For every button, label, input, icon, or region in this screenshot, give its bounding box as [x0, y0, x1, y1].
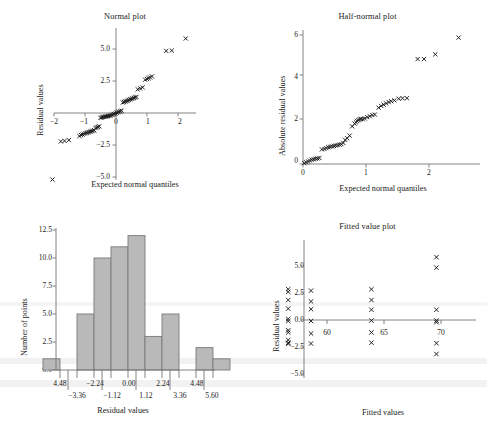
marker-cross — [286, 290, 290, 294]
half-normal-plot-axes — [300, 30, 481, 168]
marker-cross — [457, 35, 461, 39]
marker-cross — [369, 318, 373, 322]
normal-plot-axes — [54, 28, 196, 180]
histogram-bar — [43, 359, 60, 370]
half-normal-plot-markers — [302, 35, 461, 165]
histogram-bar — [213, 359, 230, 370]
marker-cross — [50, 177, 54, 181]
marker-cross — [369, 287, 373, 291]
marker-cross — [434, 341, 438, 345]
marker-cross — [184, 36, 188, 40]
marker-cross — [400, 96, 404, 100]
normal-plot-svg — [0, 4, 250, 204]
histogram-xtick-marks — [60, 370, 213, 390]
histogram-svg — [0, 210, 250, 428]
marker-cross — [392, 98, 396, 102]
half-normal-plot-panel: Half-normal plot Absolute residual value… — [248, 4, 487, 204]
marker-cross — [369, 308, 373, 312]
marker-cross — [67, 138, 71, 142]
histogram-bar — [145, 336, 162, 370]
marker-cross — [309, 299, 313, 303]
marker-cross — [433, 52, 437, 56]
marker-cross — [422, 57, 426, 61]
marker-cross — [369, 298, 373, 302]
marker-cross — [369, 340, 373, 344]
marker-cross — [434, 352, 438, 356]
histogram-bar — [94, 258, 111, 370]
histogram-panel: Number of points Residual values 12.5 10… — [0, 210, 250, 428]
marker-cross — [62, 139, 66, 143]
normal-plot-markers — [50, 36, 188, 181]
histogram-bars — [43, 236, 230, 370]
normal-plot-panel: Normal plot Residual values Expected nor… — [0, 4, 250, 204]
fitted-value-plot-axes — [301, 240, 477, 378]
histogram-bar — [77, 314, 94, 370]
marker-cross — [434, 265, 438, 269]
marker-cross — [164, 49, 168, 53]
marker-cross — [309, 307, 313, 311]
histogram-bar — [162, 314, 179, 370]
marker-cross — [286, 306, 290, 310]
marker-cross — [397, 97, 401, 101]
marker-cross — [405, 96, 409, 100]
marker-cross — [369, 330, 373, 334]
fitted-value-plot-panel: Fitted value plot Residual values Fitted… — [248, 210, 487, 428]
figure-canvas: Normal plot Residual values Expected nor… — [0, 0, 487, 428]
marker-cross — [286, 298, 290, 302]
histogram-bar — [128, 236, 145, 370]
marker-cross — [434, 255, 438, 259]
marker-cross — [309, 288, 313, 292]
marker-cross — [309, 331, 313, 335]
fitted-value-plot-markers — [286, 255, 439, 356]
marker-cross — [309, 341, 313, 345]
histogram-bar — [196, 348, 213, 370]
marker-cross — [59, 139, 63, 143]
marker-cross — [348, 134, 352, 138]
fitted-value-plot-svg — [248, 210, 487, 428]
marker-cross — [434, 308, 438, 312]
half-normal-plot-svg — [248, 4, 487, 204]
marker-cross — [309, 319, 313, 323]
histogram-bar — [111, 247, 128, 370]
marker-cross — [170, 48, 174, 52]
marker-cross — [416, 57, 420, 61]
